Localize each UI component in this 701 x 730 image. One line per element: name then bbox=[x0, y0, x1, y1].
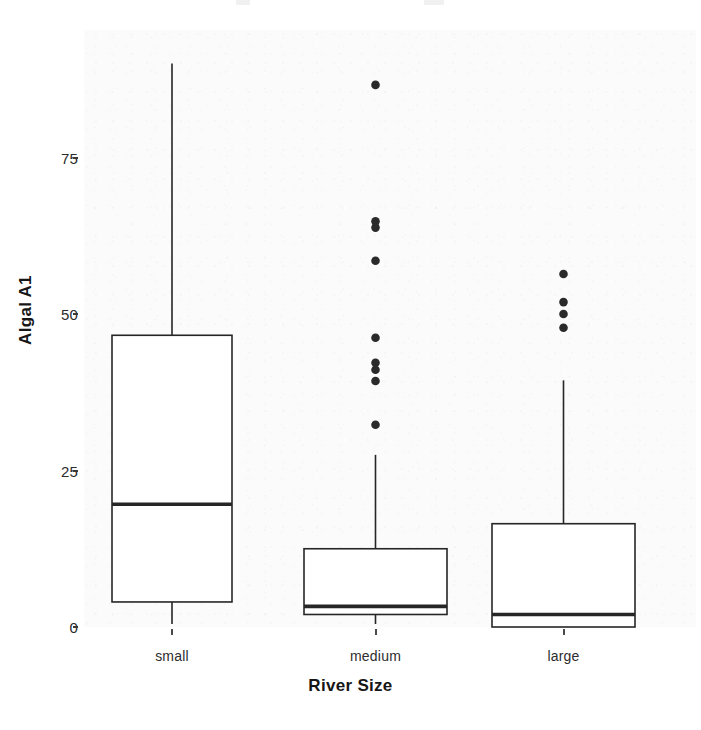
box-medium bbox=[304, 81, 447, 624]
outlier-point bbox=[371, 256, 380, 265]
box-large bbox=[492, 270, 635, 627]
y-tick-mark bbox=[73, 157, 78, 159]
outlier-point bbox=[559, 298, 568, 307]
outlier-point bbox=[371, 81, 380, 90]
x-tick-label-small: small bbox=[92, 648, 252, 664]
y-axis-ticks: 0255075 bbox=[34, 0, 78, 730]
y-axis-title: Algal A1 bbox=[16, 240, 36, 380]
x-tick-label-large: large bbox=[484, 648, 644, 664]
outlier-point bbox=[371, 333, 380, 342]
outlier-point bbox=[559, 310, 568, 319]
plot-canvas bbox=[0, 0, 701, 730]
x-tick-label-medium: medium bbox=[296, 648, 456, 664]
x-tick-mark bbox=[171, 629, 173, 635]
y-tick-mark bbox=[73, 313, 78, 315]
outlier-point bbox=[559, 323, 568, 332]
outlier-point bbox=[371, 377, 380, 386]
outlier-point bbox=[371, 365, 380, 374]
outlier-point bbox=[371, 223, 380, 232]
x-tick-mark bbox=[563, 629, 565, 635]
box-small bbox=[112, 64, 232, 624]
x-tick-mark bbox=[375, 629, 377, 635]
y-tick-mark bbox=[73, 470, 78, 472]
outlier-point bbox=[559, 270, 568, 279]
outlier-point bbox=[371, 421, 380, 430]
x-axis-title: River Size bbox=[0, 676, 701, 696]
y-tick-mark bbox=[73, 626, 78, 628]
boxplot-figure: 0255075 Algal A1 River Size smallmediuml… bbox=[0, 0, 701, 730]
